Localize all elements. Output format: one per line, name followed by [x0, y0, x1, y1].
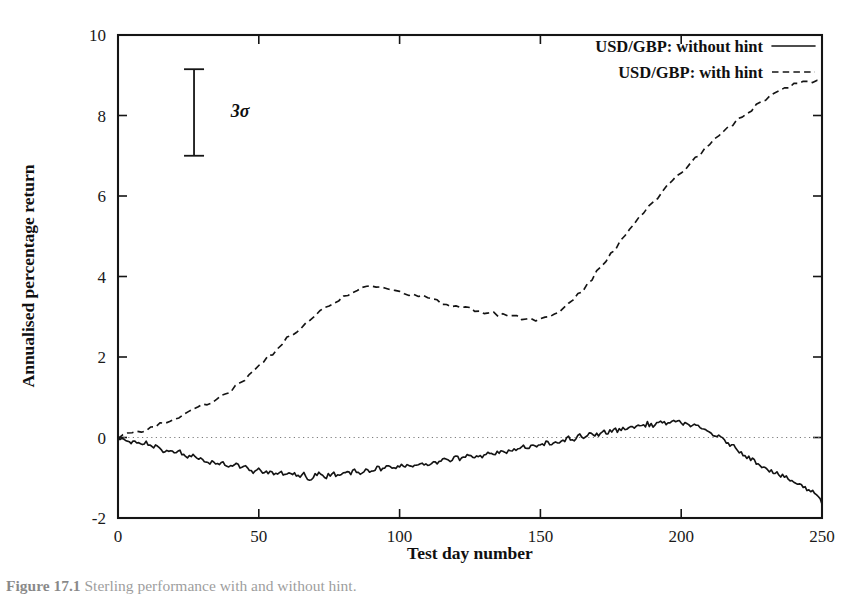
legend-label-with-hint: USD/GBP: with hint [618, 63, 763, 82]
figure-root: 3σ 050100150200250 -20246810 Test day nu… [0, 0, 857, 601]
y-tick-label: -2 [92, 509, 106, 528]
y-tick-label: 0 [98, 429, 107, 448]
canvas-background [0, 0, 857, 601]
y-tick-label: 6 [98, 187, 107, 206]
x-tick-label: 250 [809, 527, 835, 546]
figure-caption-label: Figure 17.1 [6, 577, 81, 594]
figure-caption-body: Sterling performance with and without hi… [85, 577, 357, 594]
x-tick-label: 50 [250, 527, 267, 546]
x-axis-title: Test day number [407, 543, 533, 563]
x-tick-label: 0 [114, 527, 123, 546]
y-axis-title: Annualised percentage return [18, 164, 38, 387]
error-bar-label: 3σ [230, 101, 251, 121]
x-tick-label: 200 [668, 527, 694, 546]
y-tick-label: 10 [89, 26, 106, 45]
figure-caption: Figure 17.1 Sterling performance with an… [6, 577, 851, 595]
y-tick-label: 2 [98, 348, 107, 367]
y-tick-label: 4 [98, 268, 107, 287]
legend-label-without-hint: USD/GBP: without hint [595, 37, 763, 56]
y-tick-label: 8 [98, 107, 107, 126]
chart-canvas: 3σ 050100150200250 -20246810 Test day nu… [0, 0, 857, 601]
